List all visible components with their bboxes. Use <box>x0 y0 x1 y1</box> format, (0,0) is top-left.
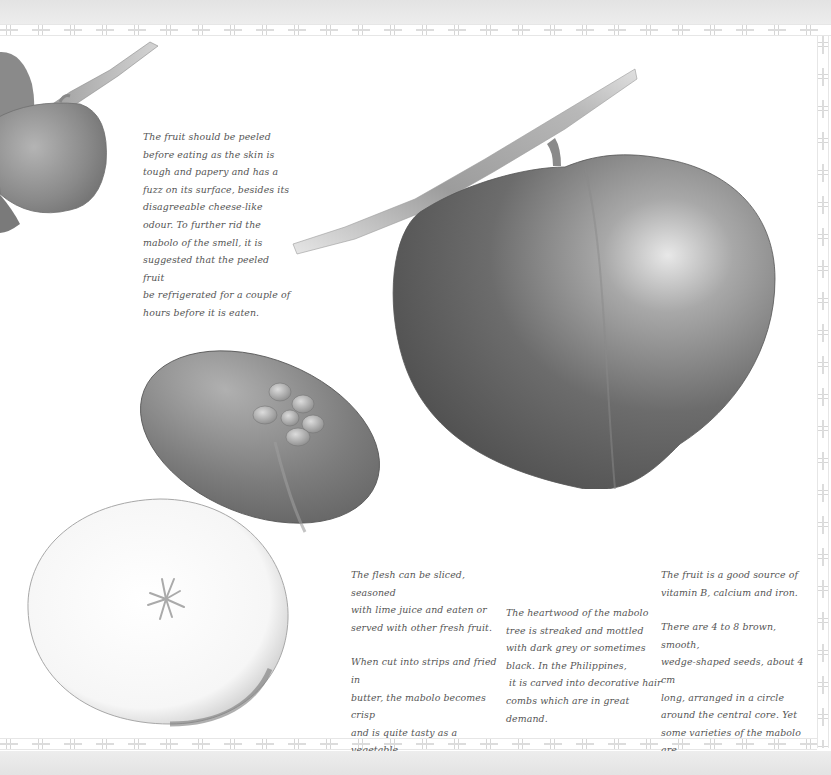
nutrition-paragraph: The fruit is a good source of vitamin B,… <box>661 566 811 601</box>
text-line: before eating as the skin is <box>143 146 293 164</box>
text-line: be refrigerated for a couple of <box>143 286 293 304</box>
text-line: hours before it is eaten. <box>143 304 293 322</box>
text-heartwood: The heartwood of the mabolo tree is stre… <box>506 604 656 727</box>
text-line: There are 4 to 8 brown, smooth, <box>661 618 811 653</box>
text-line: disagreeable cheese-like <box>143 198 293 216</box>
text-line: demand. <box>506 710 656 728</box>
fruit-cross-section-illustration <box>20 479 295 729</box>
illustrated-page: The fruit should be peeled before eating… <box>0 24 831 751</box>
peeling-paragraph: The fruit should be peeled before eating… <box>143 128 293 322</box>
text-line: The fruit is a good source of <box>661 566 811 584</box>
text-line: tough and papery and has a <box>143 163 293 181</box>
text-line: The fruit should be peeled <box>143 128 293 146</box>
text-line: served with other fresh fruit. <box>351 619 501 637</box>
text-line: some varieties of the mabolo are <box>661 724 811 751</box>
text-line: mabolo of the smell, it is <box>143 234 293 252</box>
text-line: wedge-shaped seeds, about 4 cm <box>661 653 811 688</box>
text-line: tree is streaked and mottled <box>506 622 656 640</box>
text-line: butter, the mabolo becomes crisp <box>351 689 501 724</box>
top-margin-band <box>0 0 831 24</box>
text-line: with dark grey or sometimes <box>506 639 656 657</box>
text-line: combs which are in great <box>506 692 656 710</box>
text-line: The heartwood of the mabolo <box>506 604 656 622</box>
text-line: and is quite tasty as a vegetable <box>351 724 501 751</box>
text-line: around the central core. Yet <box>661 706 811 724</box>
text-line: long, arranged in a circle <box>661 689 811 707</box>
flesh-paragraph-1: The flesh can be sliced, seasoned with l… <box>351 566 501 636</box>
right-ornamental-border <box>817 36 829 748</box>
text-nutrition-seeds: The fruit is a good source of vitamin B,… <box>661 566 811 751</box>
bottom-margin-band <box>0 751 831 775</box>
text-line: vitamin B, calcium and iron. <box>661 584 811 602</box>
text-line: black. In the Philippines, <box>506 657 656 675</box>
flesh-paragraph-2: When cut into strips and fried in butter… <box>351 653 501 751</box>
text-peeling: The fruit should be peeled before eating… <box>143 128 293 322</box>
text-line: fuzz on its surface, besides its <box>143 181 293 199</box>
text-line: When cut into strips and fried in <box>351 653 501 688</box>
text-line: with lime juice and eaten or <box>351 601 501 619</box>
heartwood-paragraph: The heartwood of the mabolo tree is stre… <box>506 604 656 727</box>
text-flesh: The flesh can be sliced, seasoned with l… <box>351 566 501 751</box>
text-line: odour. To further rid the <box>143 216 293 234</box>
seeds-paragraph: There are 4 to 8 brown, smooth, wedge-sh… <box>661 618 811 751</box>
text-line: suggested that the peeled fruit <box>143 251 293 286</box>
text-line: it is carved into decorative hair <box>506 674 656 692</box>
text-line: The flesh can be sliced, seasoned <box>351 566 501 601</box>
